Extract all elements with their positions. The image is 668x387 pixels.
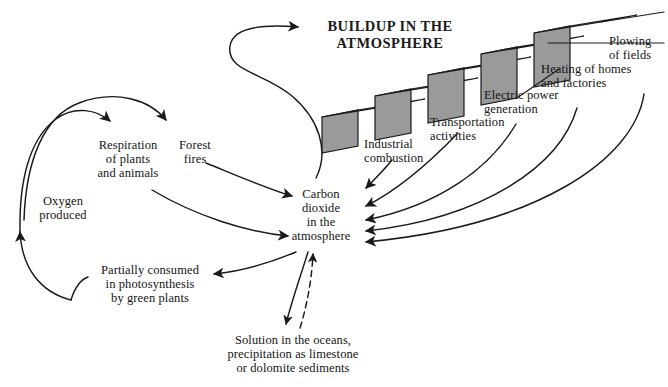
arrow-forest-fires-to-co2 [206,163,292,196]
carbon-cycle-diagram: BUILDUP IN THE ATMOSPHERE Carbon dioxide… [0,0,668,387]
label-photosynthesis: Partially consumed in photosynthesis by … [84,263,216,305]
label-carbon-dioxide: Carbon dioxide in the atmosphere [285,187,357,243]
arrow-oceans-to-co2-dashed [300,254,313,328]
step-edge-top-right [601,12,664,22]
label-electric-power-generation: Electric power generation [484,88,588,116]
label-heating-homes-factories: Heating of homes and factories [541,62,663,90]
arrow-oxygen-produced-rising [20,232,71,300]
label-respiration: Respiration of plants and animals [75,138,181,180]
page-title: BUILDUP IN THE ATMOSPHERE [300,18,480,52]
arrow-co2-to-photosynthesis [214,252,296,274]
label-transportation-activities: Transportation activities [430,115,534,143]
label-ocean-solution: Solution in the oceans, precipitation as… [213,333,373,375]
label-oxygen-produced: Oxygen produced [28,194,98,222]
arrow-respiration-to-co2 [152,190,288,236]
label-forest-fires: Forest fires [167,138,223,166]
label-plowing-of-fields: Plowing of fields [609,34,667,62]
